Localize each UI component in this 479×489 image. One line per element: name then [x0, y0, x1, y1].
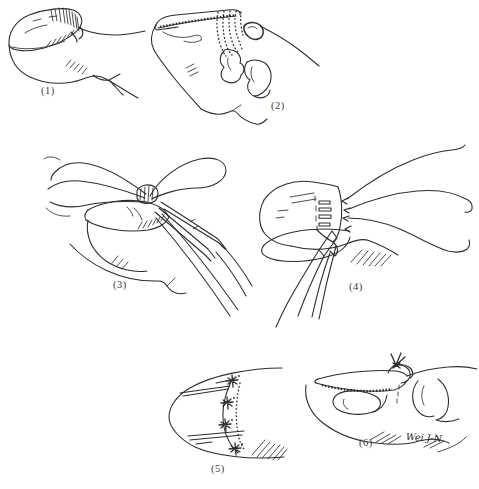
panel-1 [5, 5, 150, 105]
fingertip-lateral-view-avulsed-nail-illustration [5, 5, 150, 105]
surgical-figure-canvas: (1) (2) (3) (4) (5) (6) Wei J-N [0, 0, 479, 489]
panel-2-label: (2) [271, 100, 285, 111]
nail-plate-lifted-exposed-nail-bed-illustration [148, 6, 322, 122]
panel-5 [160, 365, 290, 480]
panel-2 [148, 6, 322, 122]
finger-outline [9, 27, 145, 98]
finger-outline [306, 365, 477, 452]
panel-1-label: (1) [41, 85, 55, 96]
panel-5-label: (5) [211, 463, 225, 474]
suture-threads [262, 145, 473, 262]
finger-outline [152, 25, 319, 124]
nail-plate [315, 370, 407, 391]
panel-6-label: (6) [359, 437, 373, 448]
phalanx-bones [220, 49, 271, 97]
dorsal-view-tied-knots-illustration [160, 365, 290, 480]
suture-placement-needle-holder-illustration [42, 150, 262, 322]
panel-4 [250, 138, 479, 330]
traction-arrows [342, 198, 351, 232]
finger-outline [260, 181, 398, 266]
suture-threads [44, 157, 226, 216]
phalanx-bones [333, 379, 459, 421]
suture-bars [319, 201, 331, 226]
suture-knot [391, 353, 410, 403]
panel-6 [298, 352, 479, 462]
panel-4-label: (4) [349, 281, 363, 292]
lifted-nail-plate [155, 10, 240, 43]
nail-repositioned-sutures-forceps-illustration [250, 138, 479, 330]
nail-plate-edges [180, 381, 244, 444]
nail-plate [9, 8, 82, 51]
panel-3 [42, 150, 262, 322]
lateral-view-nail-secured-illustration [298, 352, 479, 462]
fingertip-outline [169, 368, 287, 460]
nail-plate-edge [315, 187, 342, 256]
nail-plate [85, 200, 169, 231]
needle-holder [155, 202, 252, 316]
artist-signature: Wei J-N [406, 431, 443, 444]
panel-3-label: (3) [113, 279, 127, 290]
nail-fold-pocket [244, 22, 263, 39]
